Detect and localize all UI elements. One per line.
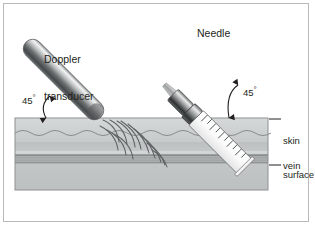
- label-skin-line1: skin: [283, 135, 314, 146]
- label-vein: vein: [283, 160, 300, 171]
- label-doppler-line2: transducer: [44, 90, 94, 102]
- label-doppler-line1: Doppler: [44, 53, 94, 65]
- angle-indicator-right: [228, 85, 238, 118]
- label-skin-surface: skin surface: [283, 113, 314, 203]
- label-needle: Needle: [197, 27, 230, 39]
- leader-lines: [269, 119, 281, 165]
- label-angle-left: 45°: [22, 93, 36, 106]
- angle-right-degree-symbol: °: [254, 85, 257, 94]
- angle-left-degree-symbol: °: [33, 93, 36, 102]
- label-angle-right: 45°: [243, 85, 257, 98]
- angle-left-value: 45: [22, 95, 33, 106]
- figure-container: Doppler transducer Needle 45° 45° skin s…: [0, 0, 315, 228]
- label-doppler-transducer: Doppler transducer: [44, 28, 94, 127]
- angle-arc-right: [228, 85, 238, 118]
- angle-right-value: 45: [243, 87, 254, 98]
- subcutaneous-layer: [15, 163, 268, 190]
